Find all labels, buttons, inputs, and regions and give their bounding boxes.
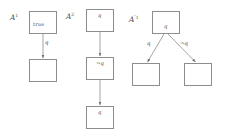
diagram-label-ap1: A′1 xyxy=(129,15,138,23)
edge-label-ap-left-q: q xyxy=(147,41,150,46)
node-a1-child xyxy=(29,59,57,82)
diagram-label-ap1-superscript: 1 xyxy=(136,15,139,20)
edge-ap-root-to-left xyxy=(148,34,165,62)
edge-label-a1-q: q xyxy=(45,40,48,45)
node-a1-root-label: true xyxy=(33,22,44,27)
diagram-label-a2: A2 xyxy=(66,13,74,20)
tableau-figure: A1 true q A2 q ¬q q A′1 q q ¬q xyxy=(0,0,228,139)
diagram-label-a1-superscript: 1 xyxy=(15,13,18,18)
node-ap-left xyxy=(132,63,160,86)
node-a2-mid-label: ¬q xyxy=(96,61,104,66)
node-a2-leaf-label: q xyxy=(98,110,101,115)
edge-ap-root-to-right xyxy=(168,34,196,62)
diagram-label-a1: A1 xyxy=(10,14,18,21)
diagram-label-a2-superscript: 2 xyxy=(71,12,74,17)
node-a2-root-label: q xyxy=(98,13,101,18)
edge-label-ap-right-notq: ¬q xyxy=(180,41,188,46)
node-ap-root-label: q xyxy=(164,24,167,29)
node-ap-right xyxy=(184,63,212,86)
